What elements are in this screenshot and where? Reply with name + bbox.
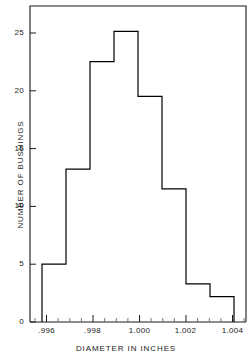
x-tick-label-996: .996	[26, 326, 67, 335]
histogram-bars	[42, 31, 234, 322]
y-tick-label-0: 0	[4, 317, 24, 326]
x-axis-major-ticks	[47, 315, 233, 322]
y-axis-title: NUMBER OF BUSHINGS	[16, 95, 25, 255]
y-axis-ticks	[30, 33, 36, 322]
y-tick-label-25: 25	[4, 28, 24, 37]
x-axis-title: DIAMETER IN INCHES	[0, 344, 252, 353]
histogram-figure	[0, 0, 252, 361]
y-tick-label-5: 5	[4, 259, 24, 268]
x-tick-label-1004: 1.004	[212, 326, 252, 335]
x-tick-label-998: .998	[72, 326, 113, 335]
x-tick-label-1002: 1.002	[165, 326, 206, 335]
x-tick-label-1000: 1.000	[119, 326, 160, 335]
